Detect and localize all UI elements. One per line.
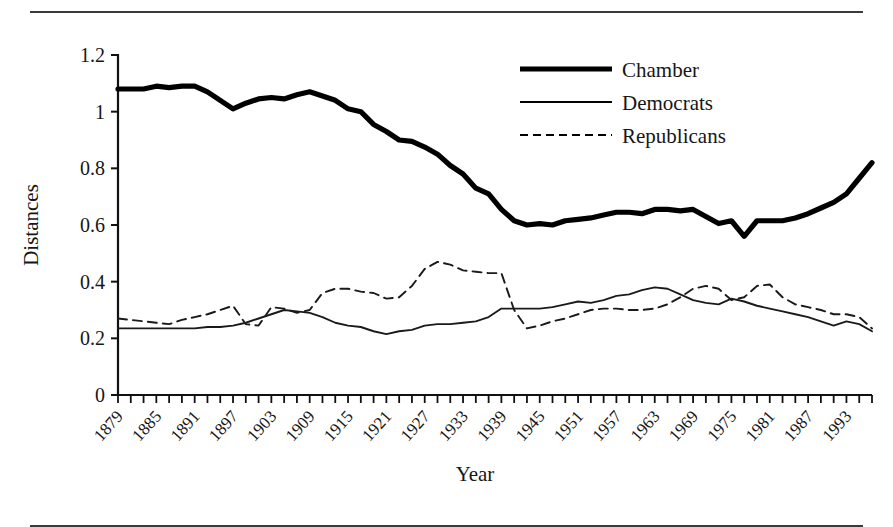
y-axis: 00.20.40.60.811.2 xyxy=(80,44,118,406)
x-tick-label: 1879 xyxy=(90,407,127,445)
y-tick-label: 1 xyxy=(95,101,105,123)
x-tick-label: 1927 xyxy=(397,407,434,445)
x-tick-label: 1921 xyxy=(358,407,395,445)
series-line-democrats xyxy=(118,287,872,334)
y-tick-label: 0.4 xyxy=(80,271,105,293)
y-tick-label: 0 xyxy=(95,384,105,406)
y-tick-label: 0.2 xyxy=(80,327,105,349)
x-tick-label: 1975 xyxy=(704,407,741,445)
x-tick-label: 1885 xyxy=(128,407,165,445)
x-axis-title: Year xyxy=(456,462,495,483)
x-tick-label: 1981 xyxy=(742,407,779,445)
plot-area: 00.20.40.60.811.2 1879188518911897190319… xyxy=(0,13,893,525)
data-series-group xyxy=(118,86,872,334)
x-tick-label: 1915 xyxy=(320,407,357,445)
cropped-caption-remnant xyxy=(0,0,893,10)
y-tick-label: 0.6 xyxy=(80,214,105,236)
y-tick-label: 0.8 xyxy=(80,157,105,179)
x-tick-label: 1987 xyxy=(780,407,817,445)
x-tick-label: 1951 xyxy=(550,407,587,445)
x-axis: 1879188518911897190319091915192119271933… xyxy=(90,395,872,445)
x-tick-label: 1957 xyxy=(589,407,626,445)
x-tick-label: 1909 xyxy=(282,407,319,445)
x-tick-label: 1897 xyxy=(205,407,242,445)
legend: ChamberDemocratsRepublicans xyxy=(520,58,726,148)
legend-label-chamber: Chamber xyxy=(622,58,699,82)
x-tick-label: 1891 xyxy=(167,407,204,445)
legend-label-democrats: Democrats xyxy=(622,91,713,115)
x-tick-label: 1939 xyxy=(473,407,510,445)
y-axis-title: Distances xyxy=(19,184,43,266)
x-tick-label: 1945 xyxy=(512,407,549,445)
series-line-republicans xyxy=(118,262,872,329)
x-tick-label: 1903 xyxy=(243,407,280,445)
y-tick-label: 1.2 xyxy=(80,44,105,66)
legend-label-republicans: Republicans xyxy=(622,124,726,148)
x-tick-label: 1969 xyxy=(665,407,702,445)
series-line-chamber xyxy=(118,86,872,236)
x-tick-label: 1963 xyxy=(627,407,664,445)
line-chart: 00.20.40.60.811.2 1879188518911897190319… xyxy=(0,13,893,483)
x-tick-label: 1993 xyxy=(819,407,856,445)
figure-container: 00.20.40.60.811.2 1879188518911897190319… xyxy=(0,0,893,527)
x-tick-label: 1933 xyxy=(435,407,472,445)
